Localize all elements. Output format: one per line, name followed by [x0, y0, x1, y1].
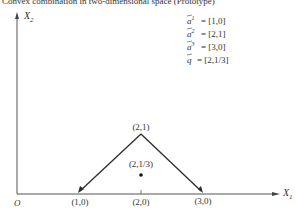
- svg-text:= [2,1]: = [2,1]: [201, 29, 226, 39]
- svg-text:= [1,0]: = [1,0]: [201, 16, 226, 26]
- point-q: [139, 173, 143, 177]
- x-axis-arrow-icon: [272, 192, 280, 196]
- origin-label: O: [14, 198, 21, 208]
- y-axis-label: X2: [23, 10, 34, 24]
- svg-text:= [2,1/3]: = [2,1/3]: [197, 55, 229, 65]
- label-a1: (1,0): [71, 197, 88, 207]
- legend: a1 = [1,0] a2 = [2,1] a3 = [3,0] q = [2,…: [187, 15, 229, 65]
- legend-item-a2: a2 = [2,1]: [187, 28, 226, 39]
- caption-text: Convex combination in two-dimensional sp…: [2, 0, 215, 6]
- label-a2: (2,1): [132, 122, 149, 132]
- svg-text:a3: a3: [187, 41, 195, 52]
- legend-item-a3: a3 = [3,0]: [187, 41, 226, 52]
- x-axis-label: X1: [282, 187, 293, 201]
- label-tick-2-0: (2,0): [132, 197, 149, 207]
- arrowhead-a1-icon: [78, 186, 84, 193]
- convex-combination-diagram: Convex combination in two-dimensional sp…: [0, 0, 297, 218]
- y-axis-arrow-icon: [15, 12, 19, 19]
- legend-item-q: q = [2,1/3]: [187, 54, 229, 65]
- svg-text:a2: a2: [187, 28, 195, 39]
- svg-text:= [3,0]: = [3,0]: [201, 42, 226, 52]
- label-a3: (3,0): [194, 196, 211, 206]
- arrowhead-a3-icon: [198, 186, 203, 193]
- svg-text:a1: a1: [187, 15, 195, 26]
- legend-item-a1: a1 = [1,0]: [187, 15, 226, 26]
- svg-text:q: q: [187, 55, 192, 65]
- label-q: (2,1/3): [129, 159, 153, 169]
